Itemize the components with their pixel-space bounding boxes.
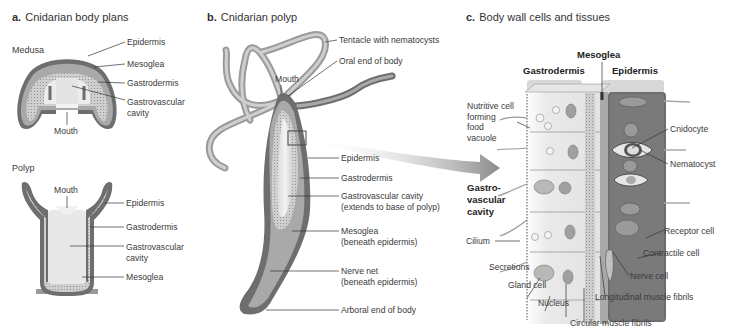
body-wall-label-contractile-cell: Contractile cell — [643, 248, 699, 259]
hydra-label-gv-cavity-line1: Gastrovascular cavity — [341, 191, 440, 202]
medusa-label-mesoglea: Mesoglea — [127, 59, 164, 70]
hydra-label-mesoglea: Mesoglea (beneath epidermis) — [341, 226, 417, 247]
body-wall-group-epidermis: Epidermis — [612, 66, 658, 77]
body-wall-label-secretions: Secretions — [489, 262, 530, 273]
panel-a-letter: a. — [12, 11, 21, 23]
body-wall-label-cilium: Cilium — [466, 236, 490, 247]
body-wall-label-nerve-cell: Nerve cell — [630, 271, 668, 282]
medusa-label-gastrodermis: Gastrodermis — [127, 78, 179, 89]
hydra-label-tentacle: Tentacle with nematocysts — [339, 35, 439, 46]
body-wall-label-receptor-cell: Receptor cell — [664, 226, 714, 237]
gv-cavity-line3: cavity — [467, 206, 506, 218]
hydra-label-oral-end: Oral end of body — [339, 56, 403, 67]
panel-b-title: b.Cnidarian polyp — [207, 11, 297, 23]
hydra-label-nerve-net-line2: (beneath epidermis) — [341, 277, 417, 288]
polyp-label-mouth: Mouth — [54, 185, 78, 196]
hydra-label-mouth: Mouth — [275, 74, 299, 85]
zoom-arrow — [308, 140, 500, 182]
polyp-heading: Polyp — [12, 163, 35, 174]
body-wall-label-nutritive-cell: Nutritive cell forming food vacuole — [467, 101, 514, 143]
polyp-label-gastrodermis: Gastrodermis — [126, 222, 178, 233]
hydra-label-gv-cavity: Gastrovascular cavity (extends to base o… — [341, 191, 440, 212]
nutritive-line3: food — [467, 122, 514, 133]
panel-c-title-text: Body wall cells and tissues — [479, 11, 610, 23]
body-wall-label-cnidocyte: Cnidocyte — [670, 124, 708, 135]
nutritive-line1: Nutritive cell — [467, 101, 514, 112]
hydra-label-mesoglea-line1: Mesoglea — [341, 226, 417, 237]
hydra-label-nerve-net-line1: Nerve net — [341, 266, 417, 277]
panel-b-letter: b. — [207, 11, 217, 23]
gv-cavity-line2: vascular — [467, 194, 506, 206]
body-wall-label-nucleus: Nucleus — [538, 298, 569, 309]
body-wall-label-circular-muscle: Circular muscle fibrils — [570, 318, 652, 329]
medusa-label-epidermis: Epidermis — [127, 37, 165, 48]
body-wall-label-gv-cavity: Gastro- vascular cavity — [467, 182, 506, 218]
body-wall-label-longitudinal-muscle: Longitudinal muscle fibrils — [595, 292, 693, 303]
medusa-label-mouth: Mouth — [54, 126, 78, 137]
hydra-label-nerve-net: Nerve net (beneath epidermis) — [341, 266, 417, 287]
nutritive-line2: forming — [467, 112, 514, 123]
body-wall-group-mesoglea: Mesoglea — [577, 50, 620, 61]
panel-a-title-text: Cnidarian body plans — [25, 11, 128, 23]
polyp-label-gastrovascular: Gastrovascular cavity — [126, 242, 184, 263]
body-wall-group-gastrodermis: Gastrodermis — [523, 66, 585, 77]
polyp-label-mesoglea: Mesoglea — [126, 272, 163, 283]
nutritive-line4: vacuole — [467, 133, 514, 144]
medusa-label-gastrovascular-line2: cavity — [127, 108, 185, 119]
panel-c-title: c.Body wall cells and tissues — [466, 11, 610, 23]
panel-b-title-text: Cnidarian polyp — [221, 11, 297, 23]
body-wall-label-nematocyst: Nematocyst — [670, 159, 715, 170]
body-wall-label-gland-cell: Gland cell — [508, 280, 546, 291]
hydra-label-mesoglea-line2: (beneath epidermis) — [341, 237, 417, 248]
hydra-label-epidermis: Epidermis — [341, 153, 379, 164]
hydra-label-arboral-end: Arboral end of body — [341, 305, 416, 316]
polyp-label-epidermis: Epidermis — [126, 198, 164, 209]
panel-c-letter: c. — [466, 11, 475, 23]
medusa-label-gastrovascular-line1: Gastrovascular — [127, 97, 185, 108]
polyp-label-gastrovascular-line2: cavity — [126, 253, 184, 264]
medusa-label-gastrovascular: Gastrovascular cavity — [127, 97, 185, 118]
panel-a-title: a.Cnidarian body plans — [12, 11, 129, 23]
hydra-label-gastrodermis: Gastrodermis — [341, 173, 393, 184]
hydra-label-gv-cavity-line2: (extends to base of polyp) — [341, 202, 440, 213]
polyp-label-gastrovascular-line1: Gastrovascular — [126, 242, 184, 253]
gv-cavity-line1: Gastro- — [467, 182, 506, 194]
medusa-heading: Medusa — [12, 45, 44, 56]
